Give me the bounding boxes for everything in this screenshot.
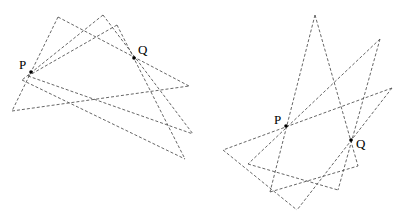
right-label-q: Q: [356, 136, 366, 151]
left-point-p: [29, 70, 33, 74]
left-label-q: Q: [138, 42, 148, 57]
left-figure: P Q: [12, 15, 193, 159]
right-edge: [248, 164, 338, 190]
right-point-q: [349, 138, 353, 142]
right-edge: [270, 15, 315, 192]
left-edge: [22, 15, 103, 80]
right-point-p: [284, 124, 288, 128]
right-edge: [315, 15, 358, 166]
right-figure: P Q: [223, 15, 392, 210]
right-edge: [338, 39, 380, 190]
right-label-p: P: [274, 112, 281, 127]
left-point-q: [132, 56, 136, 60]
left-edge: [117, 25, 185, 159]
diagram-canvas: P Q P Q: [0, 0, 393, 214]
left-edge: [58, 17, 189, 86]
right-edge: [297, 88, 392, 210]
left-edge: [103, 15, 193, 134]
right-edge: [223, 88, 392, 150]
left-label-p: P: [19, 57, 26, 72]
left-edge: [22, 80, 185, 159]
left-edge: [12, 86, 189, 111]
right-edge: [223, 150, 297, 210]
